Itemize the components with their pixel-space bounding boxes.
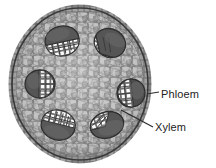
vascular-bundle-left xyxy=(25,70,55,98)
figure-canvas: Phloem Xylem xyxy=(0,0,216,168)
label-phloem: Phloem xyxy=(161,88,199,100)
label-xylem: Xylem xyxy=(155,121,186,133)
stem-cross-section-diagram xyxy=(0,0,216,168)
